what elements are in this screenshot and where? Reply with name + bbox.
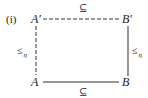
right-edge-relation-label: ≤η	[132, 46, 142, 56]
node-b: B	[122, 76, 129, 88]
right-edge-eta-subscript: η	[139, 51, 142, 59]
bottom-edge-subset-label: ⊆	[79, 87, 87, 97]
node-a: A	[31, 76, 38, 88]
node-a-prime: A′	[31, 13, 41, 25]
right-edge-leq: ≤	[132, 45, 138, 56]
node-b-prime: B′	[122, 13, 132, 25]
left-edge-leq: ≤	[17, 45, 23, 56]
left-edge-eta-subscript: η	[24, 51, 27, 59]
top-edge-subset-label: ⊆	[79, 3, 87, 13]
diagram-label: (i)	[6, 14, 16, 25]
left-edge-relation-label: ≤η	[17, 46, 27, 56]
